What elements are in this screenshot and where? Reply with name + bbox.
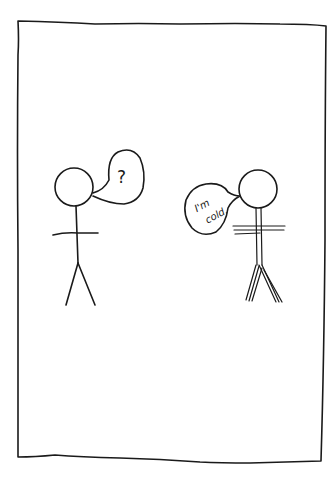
right-figure-leg-right	[259, 265, 276, 302]
bubble-text-line-1: I'm	[193, 197, 212, 214]
left-figure-leg-right	[78, 263, 95, 305]
right-figure-head	[239, 170, 277, 208]
right-bubble-outline	[185, 184, 240, 235]
left-figure-head	[55, 168, 93, 206]
left-stick-figure	[53, 168, 98, 305]
comic-panel: ? I'm cold.	[0, 0, 334, 500]
right-figure-body-shiver	[261, 208, 262, 265]
right-figure-leg-right-shiver-2	[264, 270, 282, 302]
left-figure-body	[76, 206, 78, 263]
panel-frame	[18, 21, 327, 463]
right-speech-bubble: I'm cold.	[185, 184, 240, 235]
comic-drawing: ? I'm cold.	[0, 0, 334, 500]
left-speech-bubble: ?	[93, 150, 144, 204]
left-figure-leg-left	[66, 263, 78, 305]
right-figure-body	[256, 208, 257, 265]
question-mark: ?	[117, 167, 126, 187]
left-figure-arms	[53, 233, 98, 235]
right-stick-figure	[233, 170, 285, 302]
